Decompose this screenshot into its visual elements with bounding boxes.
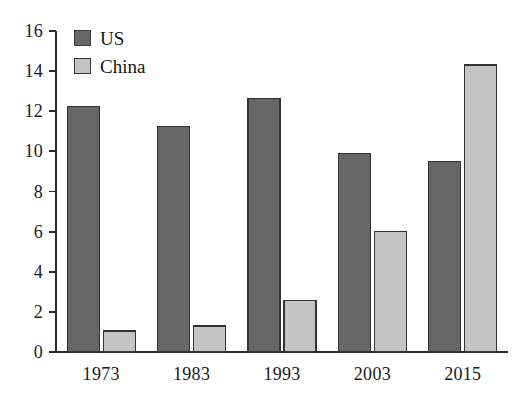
bar-us-2015 [429,161,461,352]
y-axis-tick-label: 12 [9,102,43,120]
x-axis-tick-label: 1973 [56,365,146,383]
x-axis-tick-label: 1983 [147,365,237,383]
y-axis-tick-label: 10 [9,142,43,160]
legend-item-china: China [74,54,145,78]
legend-swatch-china-icon [74,58,91,74]
chart-legend: US China [74,26,145,82]
x-axis-tick-label: 2003 [327,365,417,383]
y-axis-tick-label: 0 [9,343,43,361]
y-axis-tick-label: 16 [9,22,43,40]
bar-us-1993 [248,98,280,352]
legend-item-us: US [74,26,145,50]
bar-us-1973 [67,106,99,352]
legend-label-us: US [100,29,124,48]
y-axis-tick-label: 6 [9,223,43,241]
bar-china-2015 [465,65,497,352]
x-axis-tick-label: 1993 [237,365,327,383]
bar-china-1993 [284,301,316,352]
bar-china-1983 [194,326,226,352]
bar-us-2003 [338,153,370,352]
y-axis-tick-label: 14 [9,62,43,80]
y-axis-tick-label: 8 [9,183,43,201]
bar-china-1973 [103,331,135,352]
x-axis-tick-label: 2015 [418,365,508,383]
y-axis-tick-label: 4 [9,263,43,281]
bar-chart: 0246810121416 19731983199320032015 US Ch… [0,0,527,401]
legend-label-china: China [100,57,145,76]
y-axis-tick-label: 2 [9,303,43,321]
bar-china-2003 [374,232,406,352]
legend-swatch-us-icon [74,30,91,46]
bar-us-1983 [158,126,190,352]
